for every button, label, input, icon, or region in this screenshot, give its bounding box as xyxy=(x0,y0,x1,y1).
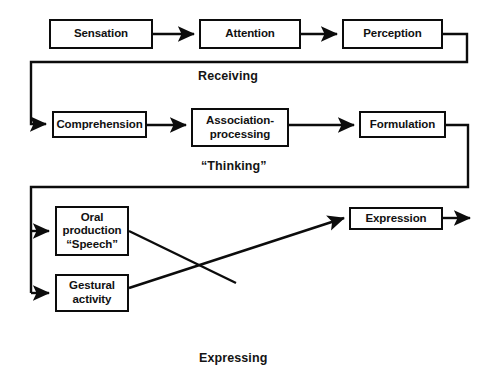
node-gestural-activity-label: Gestural activity xyxy=(66,279,118,306)
stage-label-receiving: Receiving xyxy=(198,69,258,83)
stage-label-expressing: Expressing xyxy=(199,351,267,365)
node-gestural-activity[interactable]: Gestural activity xyxy=(55,274,129,312)
node-sensation-label: Sensation xyxy=(71,27,131,41)
node-association-processing-label: Association- processing xyxy=(203,114,277,141)
node-comprehension-label: Comprehension xyxy=(53,118,145,132)
edge-gestural-expression xyxy=(129,218,344,288)
node-perception-label: Perception xyxy=(360,27,424,41)
edge-oral-production-expression xyxy=(129,231,236,283)
node-formulation[interactable]: Formulation xyxy=(359,111,446,138)
stage-label-thinking: “Thinking” xyxy=(201,159,267,173)
node-attention[interactable]: Attention xyxy=(199,19,301,49)
node-perception[interactable]: Perception xyxy=(342,19,443,49)
node-formulation-label: Formulation xyxy=(367,118,438,132)
node-association-processing[interactable]: Association- processing xyxy=(191,108,289,147)
node-oral-production[interactable]: Oral production “Speech” xyxy=(55,206,129,256)
node-comprehension[interactable]: Comprehension xyxy=(52,111,147,138)
node-expression-label: Expression xyxy=(363,212,430,226)
node-sensation[interactable]: Sensation xyxy=(49,19,153,49)
node-attention-label: Attention xyxy=(222,27,278,41)
node-oral-production-label: Oral production “Speech” xyxy=(59,211,124,252)
diagram-canvas: Sensation Attention Perception Receiving… xyxy=(0,0,487,372)
connector-layer xyxy=(0,0,487,372)
node-expression[interactable]: Expression xyxy=(349,207,443,230)
